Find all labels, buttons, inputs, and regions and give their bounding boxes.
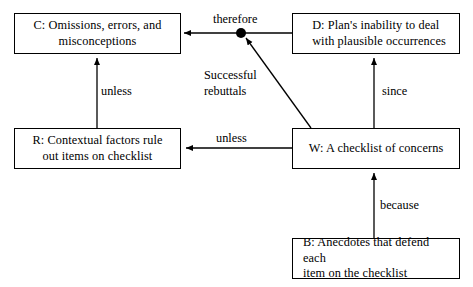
claim-node-label: C: Omissions, errors, and misconceptions: [34, 18, 162, 49]
edge-label-since: since: [382, 84, 407, 100]
edge-label-because: because: [380, 198, 419, 214]
edge-label-successful-rebuttals: Successful rebuttals: [204, 68, 257, 100]
data-node-label: D: Plan's inability to deal with plausib…: [306, 18, 446, 49]
claim-node: C: Omissions, errors, and misconceptions: [14, 13, 181, 54]
edge-label-unless-rebuttal-claim: unless: [101, 84, 132, 100]
therefore-junction-dot: [236, 28, 246, 38]
warrant-node: W: A checklist of concerns: [292, 128, 460, 169]
warrant-node-label: W: A checklist of concerns: [309, 141, 444, 156]
backing-node-label: B: Anecdotes that defend each item on th…: [299, 235, 453, 281]
rebuttal-node-label: R: Contextual factors rule out items on …: [33, 133, 163, 164]
edge-label-unless-warrant-rebuttal: unless: [216, 131, 247, 147]
backing-node: B: Anecdotes that defend each item on th…: [292, 238, 460, 279]
argument-diagram: C: Omissions, errors, and misconceptions…: [0, 0, 473, 287]
edge-label-therefore: therefore: [213, 12, 257, 28]
data-node: D: Plan's inability to deal with plausib…: [292, 13, 460, 54]
rebuttal-node: R: Contextual factors rule out items on …: [14, 128, 181, 169]
